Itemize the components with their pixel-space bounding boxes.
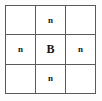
grid-cell-middle-left[interactable]: n xyxy=(6,35,35,63)
cell-glyph: B xyxy=(46,43,54,55)
grid-cell-top-right[interactable] xyxy=(66,6,95,34)
grid-cell-middle-center[interactable]: B xyxy=(36,35,65,63)
grid-cell-top-left[interactable] xyxy=(6,6,35,34)
screenshot-root: n n B n n xyxy=(0,0,102,101)
grid-cell-middle-right[interactable]: n xyxy=(66,35,95,63)
cell-glyph: n xyxy=(48,16,53,25)
grid-cell-bottom-left[interactable] xyxy=(6,65,35,93)
grid-cell-top-center[interactable]: n xyxy=(36,6,65,34)
grid-cell-bottom-right[interactable] xyxy=(66,65,95,93)
cell-glyph: n xyxy=(78,45,83,54)
cell-glyph: n xyxy=(48,74,53,83)
cell-glyph: n xyxy=(18,45,23,54)
three-by-three-grid: n n B n n xyxy=(5,5,96,94)
grid-cell-bottom-center[interactable]: n xyxy=(36,65,65,93)
